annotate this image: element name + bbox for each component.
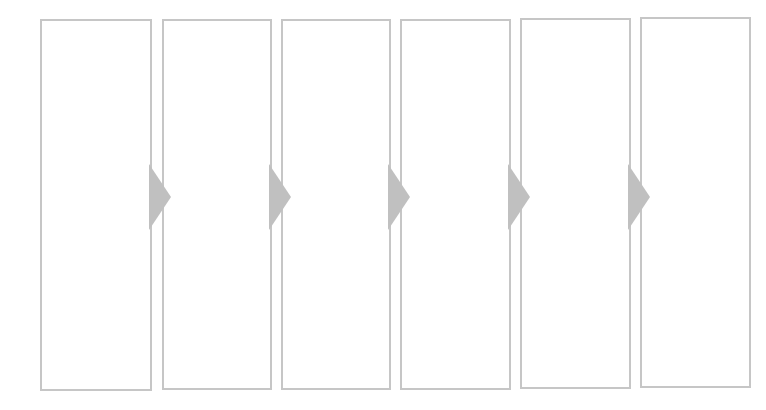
- chevron-arrow-icon: [388, 164, 410, 230]
- chevron-arrow-icon: [149, 164, 171, 230]
- chevron-arrow-icon: [508, 164, 530, 230]
- chevron-arrow-icon: [269, 164, 291, 230]
- process-diagram: [0, 0, 766, 410]
- step-box-1: [40, 19, 152, 391]
- step-box-2: [162, 19, 272, 390]
- step-box-3: [281, 19, 391, 390]
- step-box-4: [400, 19, 511, 390]
- step-box-5: [520, 18, 631, 389]
- chevron-arrow-icon: [628, 164, 650, 230]
- step-box-6: [640, 17, 751, 388]
